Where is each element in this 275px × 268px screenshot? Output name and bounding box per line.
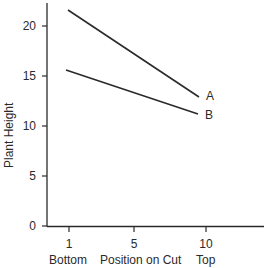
y-tick-label-20: 20: [16, 20, 36, 32]
y-tick-label-15: 15: [16, 70, 36, 82]
series-b-label: B: [205, 109, 213, 121]
x-axis-title: Position on Cut: [100, 254, 181, 266]
y-tick-label-0: 0: [16, 220, 36, 232]
y-axis-title: Plant Height: [3, 103, 15, 168]
series-a-line: [68, 10, 199, 97]
x-tick-label-10: 10: [191, 238, 221, 250]
chart-canvas: [0, 0, 275, 268]
series-b-line: [66, 70, 198, 114]
series-a-label: A: [206, 90, 214, 102]
x-tick-label-1: 1: [54, 238, 84, 250]
y-tick-label-10: 10: [16, 120, 36, 132]
x-label-top: Top: [196, 254, 215, 266]
y-ticks: [42, 26, 47, 226]
y-tick-label-5: 5: [16, 170, 36, 182]
x-tick-label-5: 5: [119, 238, 149, 250]
x-label-bottom: Bottom: [49, 254, 87, 266]
